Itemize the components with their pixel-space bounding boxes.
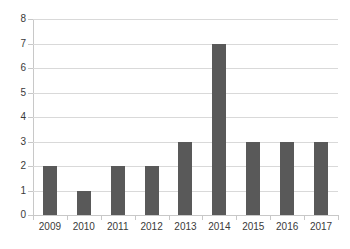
x-tick <box>33 215 34 220</box>
y-tick-7 <box>28 44 33 45</box>
bar-2014[interactable] <box>212 44 226 216</box>
x-tick <box>101 215 102 220</box>
y-tick-3 <box>28 142 33 143</box>
bar-slot <box>101 19 135 215</box>
y-axis-tick-label: 0 <box>2 210 26 220</box>
x-tick <box>67 215 68 220</box>
x-tick <box>169 215 170 220</box>
x-axis-tick-label: 2012 <box>135 221 169 233</box>
bar-2011[interactable] <box>111 166 125 215</box>
bar-slot <box>236 19 270 215</box>
x-tick <box>202 215 203 220</box>
plot-area <box>33 19 338 215</box>
y-tick-8 <box>28 19 33 20</box>
y-axis-tick-label: 1 <box>2 186 26 196</box>
y-axis-tick-label: 4 <box>2 112 26 122</box>
x-tick <box>304 215 305 220</box>
bar-2009[interactable] <box>43 166 57 215</box>
bar-slot <box>169 19 203 215</box>
y-tick-2 <box>28 166 33 167</box>
y-tick-1 <box>28 191 33 192</box>
bar-chart: 012345678 200920102011201220132014201520… <box>0 0 350 249</box>
x-tick <box>338 215 339 220</box>
x-axis-tick-label: 2016 <box>270 221 304 233</box>
bar-2013[interactable] <box>178 142 192 216</box>
y-axis-tick-label: 5 <box>2 88 26 98</box>
y-tick-5 <box>28 93 33 94</box>
x-axis-tick-label: 2011 <box>101 221 135 233</box>
y-axis-tick-label: 8 <box>2 14 26 24</box>
bar-slot <box>202 19 236 215</box>
bar-2010[interactable] <box>77 191 91 216</box>
y-tick-4 <box>28 117 33 118</box>
y-axis-tick-label: 6 <box>2 63 26 73</box>
x-tick <box>270 215 271 220</box>
x-axis-tick-label: 2010 <box>67 221 101 233</box>
bar-slot <box>33 19 67 215</box>
gridline-0 <box>33 215 338 216</box>
bar-slot <box>67 19 101 215</box>
x-axis-tick-label: 2017 <box>304 221 338 233</box>
x-axis-tick-label: 2014 <box>202 221 236 233</box>
bar-2017[interactable] <box>314 142 328 216</box>
bars-layer <box>33 19 338 215</box>
x-axis-tick-label: 2009 <box>33 221 67 233</box>
x-axis-tick-label: 2013 <box>169 221 203 233</box>
x-axis-tick-label: 2015 <box>236 221 270 233</box>
bar-2012[interactable] <box>145 166 159 215</box>
y-axis-tick-label: 7 <box>2 39 26 49</box>
y-axis-tick-label: 3 <box>2 137 26 147</box>
y-tick-6 <box>28 68 33 69</box>
x-tick <box>135 215 136 220</box>
bar-slot <box>270 19 304 215</box>
bar-slot <box>135 19 169 215</box>
bar-2016[interactable] <box>280 142 294 216</box>
bar-2015[interactable] <box>246 142 260 216</box>
bar-slot <box>304 19 338 215</box>
y-axis-tick-label: 2 <box>2 161 26 171</box>
x-tick <box>236 215 237 220</box>
